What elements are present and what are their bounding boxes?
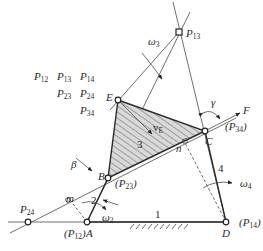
legend-p23: P23 xyxy=(56,87,71,101)
label-c: C xyxy=(205,135,213,147)
label-link-1: 1 xyxy=(155,208,161,220)
legend-p12: P12 xyxy=(33,70,48,84)
label-omega2: ω2 xyxy=(102,211,114,225)
joint-e xyxy=(115,97,121,103)
instant-center-p13 xyxy=(176,29,182,35)
ground-hatch xyxy=(130,224,188,229)
beta-arrow-1 xyxy=(76,158,92,171)
perpendicular-n xyxy=(184,141,226,222)
omega3-arc xyxy=(142,53,162,79)
joint-a xyxy=(84,219,90,225)
instant-center-legend: P12 P13 P14 P23 P24 P34 xyxy=(33,70,94,118)
joint-b xyxy=(105,175,111,181)
legend-p24: P24 xyxy=(79,87,94,101)
label-d-alias: (P14) xyxy=(239,216,261,230)
coupler-link-3 xyxy=(108,100,205,178)
label-link-2: 2 xyxy=(91,194,97,206)
label-p24: P24 xyxy=(19,203,34,217)
gamma-arc xyxy=(203,111,220,119)
label-beta: β xyxy=(70,158,77,170)
label-omega4: ω4 xyxy=(240,177,252,191)
label-gamma: γ xyxy=(211,96,216,108)
legend-p14: P14 xyxy=(79,70,94,84)
legend-p13: P13 xyxy=(56,70,71,84)
instant-center-p24 xyxy=(25,219,31,225)
linkage-diagram: P12 P13 P14 P23 P24 P34 xyxy=(0,0,263,251)
label-link-3: 3 xyxy=(137,138,143,150)
label-omega3: ω3 xyxy=(148,35,160,49)
label-link-4: 4 xyxy=(218,162,224,174)
label-b: B xyxy=(98,170,105,182)
label-p13: P13 xyxy=(185,27,200,41)
label-a-alias: (P12) xyxy=(64,227,86,241)
label-force-f: F xyxy=(242,104,250,116)
label-m: m xyxy=(66,192,74,204)
joint-c xyxy=(202,128,208,134)
beta-arrow-2 xyxy=(103,200,118,205)
label-b-alias: (P23) xyxy=(115,177,137,191)
legend-p34: P34 xyxy=(79,104,94,118)
label-n: n xyxy=(176,142,182,154)
label-a: A xyxy=(85,227,93,239)
label-e: E xyxy=(105,91,113,103)
label-d: D xyxy=(221,227,230,239)
joint-d xyxy=(223,219,229,225)
label-c-alias: (P34) xyxy=(225,120,247,134)
